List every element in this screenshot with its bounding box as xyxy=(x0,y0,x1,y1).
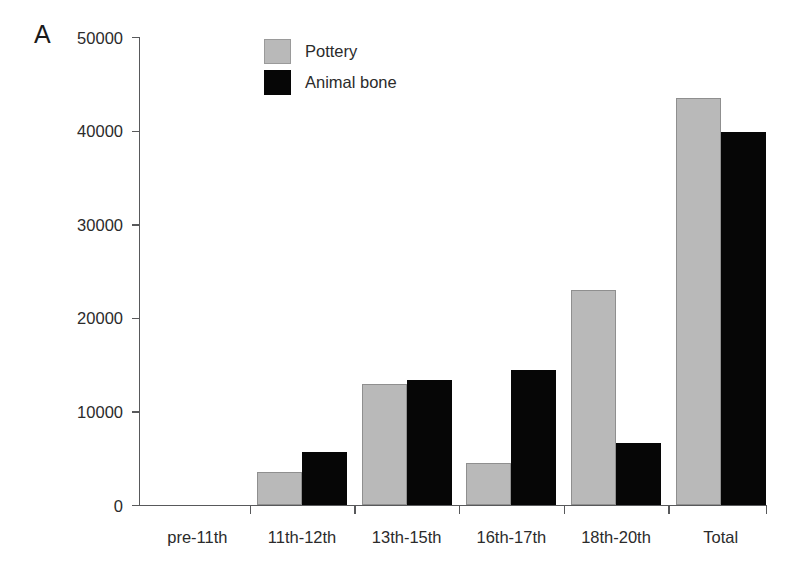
x-tick-mark xyxy=(564,505,565,514)
x-tick-mark xyxy=(459,505,460,514)
x-tick-mark xyxy=(354,505,355,514)
y-tick-mark: 30000 xyxy=(132,224,139,225)
y-tick-label: 0 xyxy=(114,497,123,514)
y-tick-label: 10000 xyxy=(77,404,123,421)
bar xyxy=(571,290,616,505)
plot-area: 01000020000300004000050000 pre-11th11th-… xyxy=(139,37,767,505)
y-tick-label: 50000 xyxy=(77,29,123,46)
y-tick-mark: 10000 xyxy=(132,411,139,412)
y-tick-mark: 40000 xyxy=(132,131,139,132)
bar xyxy=(257,472,302,505)
legend-swatch-pottery-icon xyxy=(264,39,291,64)
x-axis-category-label: 11th-12th xyxy=(268,529,337,546)
bar xyxy=(676,98,721,505)
legend-label-animal-bone: Animal bone xyxy=(305,74,397,91)
y-tick-label: 30000 xyxy=(77,217,123,234)
bar xyxy=(721,132,766,505)
y-tick-mark: 0 xyxy=(132,505,139,506)
x-tick-mark xyxy=(668,505,669,514)
x-axis-category-label: 16th-17th xyxy=(476,529,546,546)
bar xyxy=(362,384,407,505)
y-tick-mark: 50000 xyxy=(132,37,139,38)
y-tick-label: 20000 xyxy=(77,310,123,327)
y-tick-label: 40000 xyxy=(77,123,123,140)
bar xyxy=(302,452,347,505)
legend: Pottery Animal bone xyxy=(264,36,397,98)
x-axis-line xyxy=(139,505,767,506)
figure-panel-a: A 01000020000300004000050000 pre-11th11t… xyxy=(0,0,801,569)
x-axis-category-label: 18th-20th xyxy=(581,529,651,546)
x-axis-category-label: 13th-15th xyxy=(372,529,442,546)
y-tick-mark: 20000 xyxy=(132,318,139,319)
x-tick-mark xyxy=(250,505,251,514)
bar xyxy=(407,380,452,505)
x-axis-category-label: pre-11th xyxy=(167,529,227,546)
panel-label: A xyxy=(34,22,51,47)
x-axis-category-label: Total xyxy=(703,529,738,546)
bars-layer xyxy=(139,37,767,505)
bar xyxy=(466,463,511,505)
bar xyxy=(616,443,661,505)
legend-item-pottery: Pottery xyxy=(264,36,397,67)
legend-item-animal-bone: Animal bone xyxy=(264,67,397,98)
bar xyxy=(511,370,556,505)
x-axis-end-cap xyxy=(766,505,767,514)
legend-swatch-animal-bone-icon xyxy=(264,70,291,95)
legend-label-pottery: Pottery xyxy=(305,43,357,60)
